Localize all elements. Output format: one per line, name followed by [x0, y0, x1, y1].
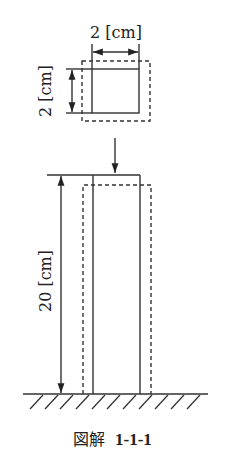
caption-number: 1-1-1 [115, 430, 152, 449]
column: 20 [cm] [36, 175, 151, 394]
figure-caption: 図解 1-1-1 [73, 430, 152, 449]
column-compression-diagram: 2 [cm] 2 [cm] 20 [cm] [0, 0, 229, 470]
ground-hatching-icon [23, 394, 208, 409]
cross-section-height-label: 2 [cm] [36, 65, 55, 117]
cross-section-width-label: 2 [cm] [90, 23, 142, 42]
column-length-label: 20 [cm] [36, 250, 55, 312]
original-cross-section-square [92, 69, 139, 113]
cross-section: 2 [cm] 2 [cm] [36, 23, 150, 121]
caption-prefix: 図解 [73, 430, 105, 449]
